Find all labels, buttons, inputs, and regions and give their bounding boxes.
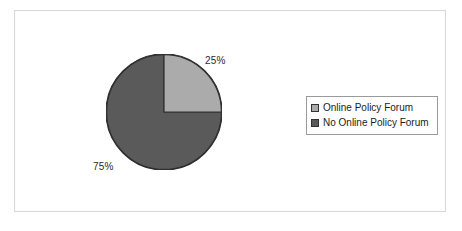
chart-legend: Online Policy Forum No Online Policy For… <box>306 96 438 135</box>
legend-label: Online Policy Forum <box>323 102 413 114</box>
plot-area: 25% 75% Online Policy Forum No Online Po… <box>15 11 447 213</box>
chart-frame: 25% 75% Online Policy Forum No Online Po… <box>14 10 446 212</box>
pie-label-online-policy-forum: 25% <box>205 56 226 66</box>
legend-swatch-icon <box>311 104 319 112</box>
legend-label: No Online Policy Forum <box>323 117 429 129</box>
pie-svg <box>106 54 222 170</box>
pie-label-no-online-policy-forum: 75% <box>93 162 114 172</box>
pie-chart <box>106 54 222 170</box>
screenshot-root: 25% 75% Online Policy Forum No Online Po… <box>0 0 462 231</box>
legend-item-online-policy-forum[interactable]: Online Policy Forum <box>311 101 433 115</box>
legend-swatch-icon <box>311 119 319 127</box>
legend-item-no-online-policy-forum[interactable]: No Online Policy Forum <box>311 116 433 130</box>
